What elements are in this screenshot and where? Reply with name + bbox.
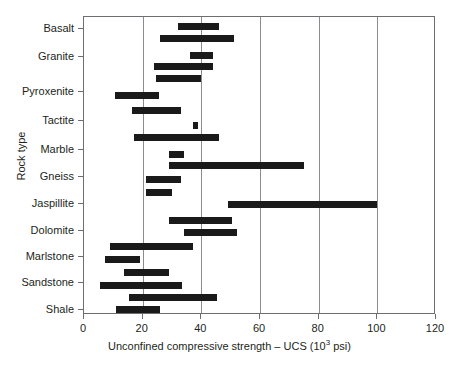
x-tick-40	[200, 314, 201, 319]
range-bar	[154, 63, 213, 70]
y-tick-label-tactite: Tactite	[0, 114, 74, 126]
range-bar	[129, 294, 217, 301]
x-tick-label-60: 60	[253, 322, 265, 334]
x-tick-80	[318, 314, 319, 319]
y-tick-label-sandstone: Sandstone	[0, 276, 74, 288]
plot-area	[83, 16, 435, 314]
y-tick-tactite	[78, 120, 83, 121]
range-bar	[115, 92, 159, 99]
x-tick-0	[83, 314, 84, 319]
range-bar	[105, 256, 140, 263]
x-tick-label-20: 20	[136, 322, 148, 334]
x-axis-label-suffix: psi)	[330, 340, 351, 352]
y-tick-label-pyroxenite: Pyroxenite	[0, 85, 74, 97]
range-bar	[124, 269, 169, 276]
y-tick-label-dolomite: Dolomite	[0, 224, 74, 236]
y-tick-label-gneiss: Gneiss	[0, 170, 74, 182]
x-tick-60	[259, 314, 260, 319]
range-bar	[156, 75, 201, 82]
y-tick-pyroxenite	[78, 91, 83, 92]
x-axis-label: Unconfined compressive strength – UCS (1…	[0, 338, 459, 352]
ucs-rock-type-chart: 020406080100120 BasaltGranitePyroxeniteT…	[0, 0, 459, 367]
y-tick-shale	[78, 309, 83, 310]
x-tick-20	[142, 314, 143, 319]
x-tick-label-120: 120	[426, 322, 444, 334]
range-bar	[160, 35, 233, 42]
x-tick-label-100: 100	[367, 322, 385, 334]
range-bar	[169, 162, 304, 169]
y-tick-dolomite	[78, 230, 83, 231]
range-bar	[184, 229, 237, 236]
range-bar	[178, 23, 219, 30]
y-tick-sandstone	[78, 282, 83, 283]
range-bar	[146, 176, 181, 183]
y-tick-label-marble: Marble	[0, 143, 74, 155]
y-tick-gneiss	[78, 176, 83, 177]
x-tick-label-80: 80	[312, 322, 324, 334]
x-tick-120	[435, 314, 436, 319]
range-bar	[169, 217, 232, 224]
y-tick-marble	[78, 149, 83, 150]
x-tick-label-0: 0	[80, 322, 86, 334]
gridline-x-100	[377, 17, 378, 313]
y-tick-label-basalt: Basalt	[0, 22, 74, 34]
range-bar	[193, 122, 199, 129]
range-bar	[190, 52, 213, 59]
range-bar	[146, 189, 172, 196]
range-bar	[228, 201, 378, 208]
gridline-x-80	[319, 17, 320, 313]
y-tick-marlstone	[78, 256, 83, 257]
range-bar	[134, 134, 219, 141]
range-bar	[110, 243, 192, 250]
range-bar	[100, 282, 182, 289]
y-tick-basalt	[78, 28, 83, 29]
y-tick-label-marlstone: Marlstone	[0, 250, 74, 262]
range-bar	[132, 107, 180, 114]
y-tick-label-jaspillite: Jaspillite	[0, 197, 74, 209]
y-tick-jaspillite	[78, 203, 83, 204]
y-tick-label-granite: Granite	[0, 50, 74, 62]
y-tick-label-shale: Shale	[0, 303, 74, 315]
x-axis-label-prefix: Unconfined compressive strength – UCS (1…	[108, 340, 326, 352]
x-tick-label-40: 40	[194, 322, 206, 334]
y-axis-label: Rock type	[15, 96, 27, 216]
range-bar	[169, 151, 184, 158]
x-tick-100	[376, 314, 377, 319]
range-bar	[116, 306, 160, 313]
y-tick-granite	[78, 56, 83, 57]
